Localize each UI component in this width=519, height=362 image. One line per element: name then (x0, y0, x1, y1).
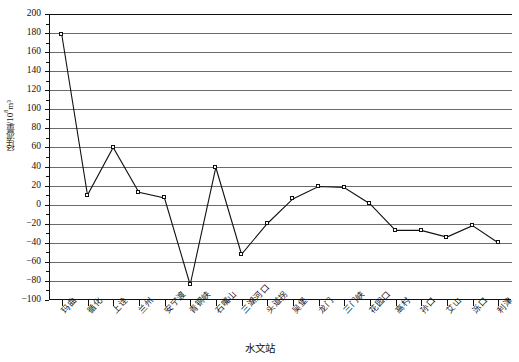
grid-line (50, 262, 512, 263)
y-axis-tick-label: −100 (5, 295, 41, 305)
y-axis-tick-label: 40 (5, 162, 41, 172)
y-axis-tick-label: 180 (5, 28, 41, 38)
chart-root: 径流量/108m³ 200180160140120100806040200−20… (0, 0, 519, 362)
y-axis-tick-label: 140 (5, 66, 41, 76)
grid-line (50, 14, 512, 15)
grid-line (50, 205, 512, 206)
y-axis-tick-label: −20 (5, 219, 41, 229)
grid-line (50, 224, 512, 225)
y-axis-tick-label: 120 (5, 85, 41, 95)
y-axis-tick-label: −60 (5, 257, 41, 267)
y-axis-tick-label: 60 (5, 142, 41, 152)
plot-area (49, 14, 511, 300)
y-axis-tick-label: 100 (5, 104, 41, 114)
y-axis-tick-label: −80 (5, 276, 41, 286)
grid-line (50, 186, 512, 187)
y-axis-tick-label: −40 (5, 238, 41, 248)
grid-line (50, 128, 512, 129)
y-axis-tick (45, 300, 49, 301)
x-axis-title: 水文站 (0, 340, 519, 355)
grid-line (50, 281, 512, 282)
grid-line (50, 90, 512, 91)
grid-line (50, 52, 512, 53)
y-axis-tick-label: 20 (5, 181, 41, 191)
grid-line (50, 147, 512, 148)
y-axis-tick-label: 160 (5, 47, 41, 57)
grid-line (50, 243, 512, 244)
y-axis-tick-label: 0 (5, 200, 41, 210)
y-axis-tick-label: 200 (5, 9, 41, 19)
grid-line (50, 71, 512, 72)
grid-line (50, 167, 512, 168)
grid-line (50, 109, 512, 110)
grid-line (50, 33, 512, 34)
y-axis-tick-label: 80 (5, 123, 41, 133)
